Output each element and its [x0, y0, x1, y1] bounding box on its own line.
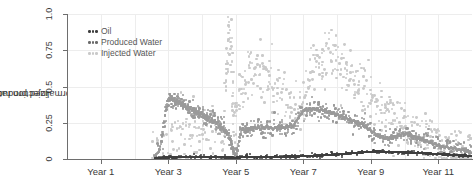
- data-point: [246, 123, 248, 125]
- data-point: [290, 111, 293, 114]
- data-point: [385, 130, 387, 132]
- data-point: [188, 126, 190, 128]
- data-point: [352, 79, 355, 82]
- data-point: [252, 82, 255, 85]
- data-point: [429, 155, 431, 157]
- data-point: [392, 131, 395, 134]
- data-point: [359, 63, 361, 65]
- data-point: [431, 120, 433, 122]
- data-point: [346, 73, 348, 75]
- data-point: [290, 91, 292, 93]
- data-point: [202, 128, 205, 131]
- data-point: [299, 150, 301, 152]
- data-point: [242, 101, 245, 104]
- data-point: [231, 37, 233, 39]
- data-point: [375, 113, 377, 115]
- data-point: [229, 64, 231, 66]
- data-point: [294, 103, 297, 106]
- data-point: [277, 113, 279, 115]
- data-point: [384, 125, 386, 127]
- x-axis-tick: [168, 160, 169, 164]
- data-point: [222, 148, 224, 150]
- data-point: [325, 103, 327, 105]
- data-point: [259, 87, 261, 89]
- data-point: [328, 38, 330, 40]
- data-point: [379, 109, 381, 111]
- data-point: [162, 148, 164, 150]
- data-point: [276, 92, 278, 94]
- data-point: [397, 144, 399, 146]
- data-point: [376, 99, 379, 102]
- data-point: [225, 89, 227, 91]
- data-point: [454, 130, 456, 132]
- data-point: [321, 64, 323, 66]
- data-point: [172, 107, 174, 109]
- data-point: [213, 114, 215, 116]
- data-point: [419, 125, 421, 127]
- data-point: [318, 62, 320, 64]
- data-point: [228, 129, 230, 131]
- data-point: [276, 100, 278, 102]
- data-point: [281, 88, 283, 90]
- data-point: [165, 106, 168, 109]
- gridline-vertical: [303, 14, 304, 159]
- gridline-vertical: [168, 14, 169, 159]
- data-point: [347, 111, 349, 113]
- data-point: [325, 72, 327, 74]
- data-point: [225, 79, 227, 81]
- data-point: [364, 69, 366, 71]
- data-point: [356, 70, 358, 72]
- data-point: [392, 102, 394, 104]
- data-point: [356, 115, 358, 117]
- data-point: [159, 145, 162, 148]
- data-point: [380, 90, 382, 92]
- data-point: [211, 105, 213, 107]
- data-point: [276, 87, 278, 89]
- legend-item[interactable]: Injected Water: [88, 48, 162, 59]
- legend-item[interactable]: Produced Water: [88, 37, 162, 48]
- data-point: [313, 112, 316, 115]
- data-point: [318, 101, 320, 103]
- data-point: [171, 140, 174, 143]
- data-point: [345, 77, 347, 79]
- data-point: [351, 64, 353, 66]
- data-point: [362, 105, 364, 107]
- data-point: [420, 146, 422, 148]
- data-point: [385, 110, 387, 112]
- data-point: [226, 68, 228, 70]
- data-point: [410, 121, 412, 123]
- data-point: [152, 131, 154, 133]
- data-point: [302, 81, 305, 84]
- data-point: [353, 97, 355, 99]
- data-point: [221, 118, 223, 120]
- data-point: [244, 70, 246, 72]
- data-point: [273, 123, 275, 125]
- data-point: [231, 61, 233, 63]
- data-point: [209, 147, 211, 149]
- data-point: [313, 71, 315, 73]
- data-point: [259, 65, 261, 67]
- data-point: [407, 154, 409, 156]
- data-point: [354, 75, 356, 77]
- data-point: [239, 137, 242, 140]
- legend-label: Produced Water: [101, 37, 162, 48]
- data-point: [406, 139, 408, 141]
- data-point: [297, 122, 299, 124]
- data-point: [194, 116, 197, 119]
- data-point: [192, 95, 194, 97]
- data-point: [229, 48, 231, 50]
- data-point: [224, 136, 226, 138]
- data-point: [202, 124, 204, 126]
- data-point: [330, 29, 332, 31]
- legend-item[interactable]: Oil: [88, 26, 162, 37]
- data-point: [315, 66, 317, 68]
- data-point: [424, 112, 426, 114]
- data-point: [268, 74, 270, 76]
- legend-marker-icon: [88, 26, 101, 37]
- data-point: [251, 94, 253, 96]
- data-point: [181, 128, 184, 131]
- data-point: [305, 114, 308, 117]
- data-point: [305, 91, 307, 93]
- data-point: [260, 96, 263, 99]
- data-point: [293, 96, 295, 98]
